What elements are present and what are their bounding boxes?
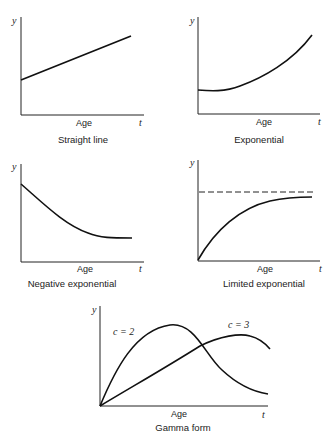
x-axis-label: Age — [256, 117, 272, 127]
x-axis-label: Age — [257, 264, 273, 274]
caption: Straight line — [58, 134, 108, 145]
panel-straight-line: y Age t Straight line — [11, 15, 144, 145]
straight-line-curve — [21, 36, 131, 80]
gamma-curve-c3 — [100, 335, 270, 406]
series-label-c3: c = 3 — [228, 319, 249, 330]
caption: Exponential — [234, 134, 284, 145]
x-axis-symbol: t — [318, 116, 321, 127]
y-axis-label: y — [189, 15, 195, 26]
axes — [21, 17, 144, 115]
axes — [21, 164, 144, 262]
x-axis-symbol: t — [319, 263, 322, 274]
y-axis-label: y — [189, 157, 195, 168]
y-axis-label: y — [11, 161, 17, 172]
axes — [198, 160, 320, 261]
y-axis-label: y — [91, 304, 97, 315]
x-axis-label: Age — [77, 264, 93, 274]
panel-exponential: y Age t Exponential — [189, 15, 321, 145]
caption: Gamma form — [155, 422, 211, 433]
x-axis-symbol: t — [139, 117, 142, 128]
panel-negative-exponential: y Age t Negative exponential — [11, 161, 144, 289]
panel-limited-exponential: y Age t Limited exponential — [189, 157, 322, 289]
panel-gamma-form: y Age t c = 2 c = 3 Gamma form — [91, 304, 270, 433]
exponential-curve — [198, 35, 312, 91]
x-axis-symbol: t — [262, 409, 265, 420]
x-axis-label: Age — [76, 118, 92, 128]
limited-exponential-curve — [198, 197, 312, 260]
negative-exponential-curve — [21, 184, 132, 238]
caption: Negative exponential — [28, 278, 117, 289]
y-axis-label: y — [11, 15, 17, 26]
x-axis-label: Age — [171, 409, 187, 419]
x-axis-symbol: t — [139, 263, 142, 274]
series-label-c2: c = 2 — [113, 326, 134, 337]
growth-curves-figure: y Age t Straight line y Age t Exponentia… — [0, 0, 336, 442]
axes — [198, 17, 320, 114]
caption: Limited exponential — [223, 278, 305, 289]
